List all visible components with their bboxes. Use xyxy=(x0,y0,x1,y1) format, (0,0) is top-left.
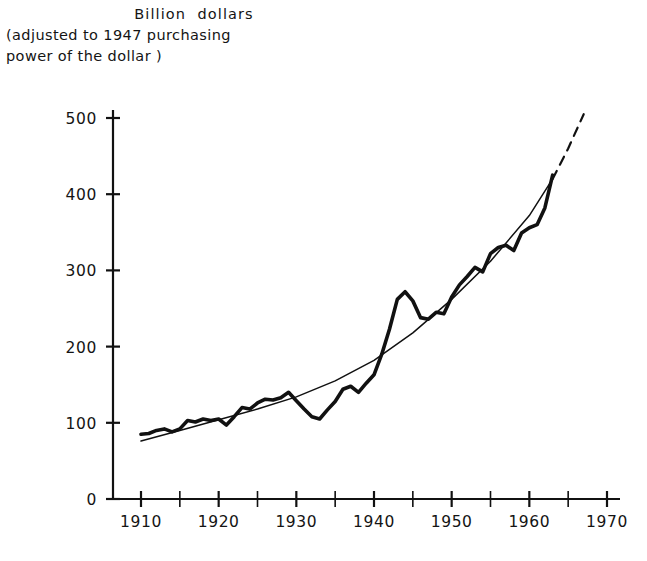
chart-series-line xyxy=(141,179,553,441)
chart-series-line xyxy=(553,114,584,179)
y-axis-tick-label: 300 xyxy=(66,262,97,280)
y-axis-tick-label: 200 xyxy=(66,339,97,357)
chart-axes xyxy=(113,110,620,499)
y-axis-tick-label: 0 xyxy=(87,491,97,509)
x-axis-ticks: 1910192019301940195019601970 xyxy=(120,491,628,531)
y-axis-ticks: 0100200300400500 xyxy=(66,110,120,509)
y-axis-tick-label: 400 xyxy=(66,186,97,204)
chart-series-line xyxy=(141,175,553,434)
y-axis-tick-label: 500 xyxy=(66,110,97,128)
x-axis-tick-label: 1950 xyxy=(431,513,473,531)
x-axis-tick-label: 1940 xyxy=(353,513,395,531)
y-axis-tick-label: 100 xyxy=(66,415,97,433)
x-axis-tick-label: 1920 xyxy=(198,513,240,531)
x-axis-tick-label: 1910 xyxy=(120,513,162,531)
x-axis-tick-label: 1960 xyxy=(508,513,550,531)
chart-plot-area: 0100200300400500 19101920193019401950196… xyxy=(0,0,647,561)
bottom-caption xyxy=(4,545,434,559)
x-axis-tick-label: 1930 xyxy=(275,513,317,531)
x-axis-tick-label: 1970 xyxy=(586,513,628,531)
chart-figure: Billion dollars (adjusted to 1947 purcha… xyxy=(0,0,647,561)
chart-series-group xyxy=(141,114,584,441)
